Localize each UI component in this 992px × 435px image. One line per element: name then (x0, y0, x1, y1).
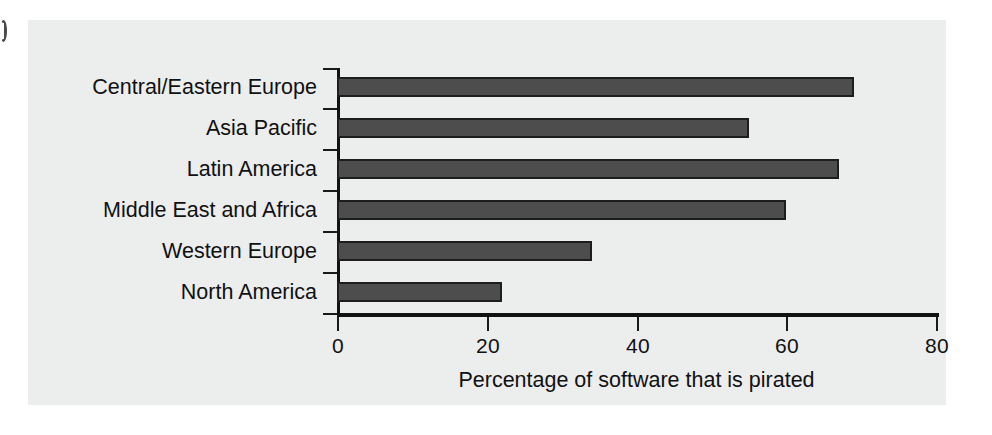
category-label-middle-east-and-africa: Middle East and Africa (17, 199, 317, 221)
x-axis-tick (936, 317, 938, 331)
x-axis-tick (786, 317, 788, 331)
x-tick-label-60: 60 (775, 334, 799, 358)
y-axis-tick (323, 272, 337, 274)
bar-central-eastern-europe (337, 77, 854, 97)
chart-panel: 0 20 40 60 80 Central/Eastern Europe Asi… (28, 20, 946, 405)
bar-asia-pacific (337, 118, 749, 138)
category-label-north-america: North America (17, 281, 317, 303)
y-axis-line (337, 68, 340, 313)
category-label-asia-pacific: Asia Pacific (17, 117, 317, 139)
x-axis-title: Percentage of software that is pirated (337, 368, 936, 393)
bar-middle-east-and-africa (337, 200, 786, 220)
category-label-column: Central/Eastern Europe Asia Pacific Lati… (17, 68, 317, 313)
y-axis-tick (323, 68, 337, 70)
cropped-figure-marker-icon (0, 20, 7, 42)
x-tick-label-20: 20 (476, 334, 500, 358)
x-tick-label-40: 40 (626, 334, 650, 358)
y-axis-tick (323, 149, 337, 151)
y-axis-tick (323, 190, 337, 192)
x-axis-tick (337, 317, 339, 331)
category-label-western-europe: Western Europe (17, 240, 317, 262)
x-axis-tick (637, 317, 639, 331)
category-label-latin-america: Latin America (17, 158, 317, 180)
plot-area: 0 20 40 60 80 Central/Eastern Europe Asi… (337, 68, 936, 313)
figure-root: 0 20 40 60 80 Central/Eastern Europe Asi… (0, 0, 992, 435)
x-tick-label-80: 80 (925, 334, 949, 358)
x-axis-tick (487, 317, 489, 331)
bar-western-europe (337, 241, 592, 261)
category-label-central-eastern-europe: Central/Eastern Europe (17, 76, 317, 98)
bar-latin-america (337, 159, 839, 179)
y-axis-tick (323, 108, 337, 110)
bar-north-america (337, 282, 502, 302)
y-axis-tick (323, 231, 337, 233)
x-tick-label-0: 0 (332, 334, 344, 358)
y-axis-tick (323, 313, 337, 315)
